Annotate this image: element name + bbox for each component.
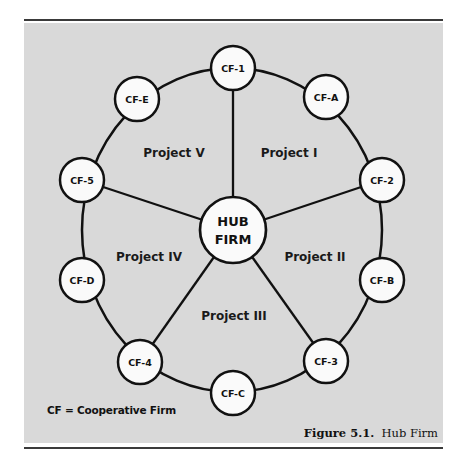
caption-title: Hub Firm: [381, 426, 438, 440]
project-label-i: Project I: [261, 146, 318, 160]
node-cf-e: CF-E: [115, 77, 159, 121]
node-label: CF-3: [314, 356, 338, 367]
node-label: CF-B: [370, 275, 394, 286]
node-cf-a: CF-A: [304, 75, 348, 119]
node-cf-4: CF-4: [118, 340, 162, 384]
node-cf-1: CF-1: [211, 46, 255, 90]
node-label: CF-2: [370, 175, 394, 186]
node-cf-d: CF-D: [60, 258, 104, 302]
hub-label-line1: HUB: [217, 214, 248, 229]
hub-firm-node: HUB FIRM: [200, 197, 266, 263]
project-label-v: Project V: [143, 146, 205, 160]
project-label-iii: Project III: [201, 309, 267, 323]
node-cf-2: CF-2: [360, 158, 404, 202]
node-label: CF-D: [70, 275, 95, 286]
legend: CF = Cooperative Firm: [47, 404, 176, 416]
node-cf-c: CF-C: [211, 371, 255, 415]
project-label-ii: Project II: [284, 250, 345, 264]
bottom-rule: [24, 447, 443, 449]
node-label: CF-4: [128, 357, 152, 368]
node-cf-b: CF-B: [360, 258, 404, 302]
node-label: CF-5: [70, 175, 94, 186]
node-label: CF-C: [221, 388, 245, 399]
node-label: CF-A: [314, 92, 339, 103]
node-label: CF-1: [221, 63, 245, 74]
caption-number: Figure 5.1.: [304, 426, 374, 440]
node-label: CF-E: [125, 94, 149, 105]
hub-label-line2: FIRM: [215, 232, 252, 247]
figure-caption: Figure 5.1. Hub Firm: [304, 426, 438, 440]
node-cf-5: CF-5: [60, 158, 104, 202]
project-label-iv: Project IV: [116, 250, 183, 264]
node-cf-3: CF-3: [304, 339, 348, 383]
